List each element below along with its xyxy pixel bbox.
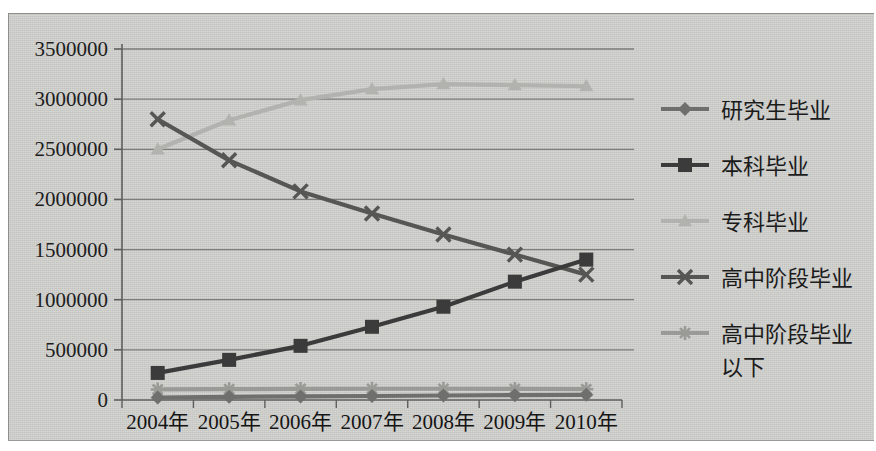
series-square <box>151 253 594 380</box>
x-category-label: 2004年 <box>126 410 189 434</box>
marker-square <box>678 158 692 172</box>
y-tick-label: 2500000 <box>35 137 109 161</box>
series-triangle <box>151 77 594 154</box>
legend-label-wrap: 以下 <box>721 355 765 380</box>
legend-label: 高中阶段毕业 <box>721 322 853 347</box>
marker-square <box>508 275 522 289</box>
y-tick-label: 500000 <box>45 338 108 362</box>
series-layer <box>151 77 594 404</box>
legend-label: 本科毕业 <box>721 154 809 179</box>
series-line <box>158 260 587 373</box>
series-line <box>158 119 587 274</box>
axes <box>122 44 622 400</box>
legend-label: 研究生毕业 <box>721 98 831 123</box>
marker-star <box>678 326 692 340</box>
legend-item[interactable]: 专科毕业 <box>661 210 809 235</box>
marker-diamond <box>678 102 692 116</box>
scanned-page: 0500000100000015000002000000250000030000… <box>0 0 876 451</box>
y-tick-label: 2000000 <box>35 187 109 211</box>
x-category-label: 2006年 <box>269 410 332 434</box>
chart-card: 0500000100000015000002000000250000030000… <box>8 13 874 441</box>
legend-item[interactable]: 高中阶段毕业以下 <box>661 322 853 380</box>
marker-square <box>579 253 593 267</box>
y-tick-label: 1000000 <box>35 288 109 312</box>
marker-square <box>294 339 308 353</box>
y-tick-label: 3500000 <box>35 37 109 61</box>
chart-legend: 研究生毕业本科毕业专科毕业高中阶段毕业高中阶段毕业以下 <box>661 98 853 380</box>
x-category-label: 2009年 <box>483 410 546 434</box>
legend-item[interactable]: 本科毕业 <box>661 154 809 179</box>
y-tick-label: 3000000 <box>35 87 109 111</box>
marker-square <box>365 320 379 334</box>
marker-cross <box>151 112 165 126</box>
marker-diamond <box>294 389 308 403</box>
y-axis-ticks: 0500000100000015000002000000250000030000… <box>35 37 123 412</box>
series-cross <box>151 112 594 281</box>
marker-diamond <box>365 389 379 403</box>
marker-square <box>151 366 165 380</box>
y-tick-label: 1500000 <box>35 238 109 262</box>
legend-label: 高中阶段毕业 <box>721 266 853 291</box>
y-tick-label: 0 <box>98 388 109 412</box>
x-category-label: 2005年 <box>198 410 261 434</box>
legend-item[interactable]: 高中阶段毕业 <box>661 266 853 291</box>
marker-square <box>436 300 450 314</box>
legend-item[interactable]: 研究生毕业 <box>661 98 831 123</box>
x-category-label: 2007年 <box>341 410 404 434</box>
marker-diamond <box>222 390 236 404</box>
line-chart: 0500000100000015000002000000250000030000… <box>9 14 875 442</box>
x-category-label: 2008年 <box>412 410 475 434</box>
legend-label: 专科毕业 <box>721 210 809 235</box>
marker-square <box>222 353 236 367</box>
category-labels: 2004年2005年2006年2007年2008年2009年2010年 <box>126 410 618 434</box>
x-category-label: 2010年 <box>555 410 618 434</box>
